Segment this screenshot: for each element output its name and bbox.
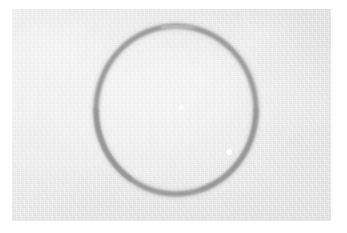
- paper-mottle: [12, 9, 331, 221]
- circle-stroke: [96, 26, 256, 194]
- circle-light-arc: [162, 26, 193, 28]
- scanned-image-canvas: [0, 0, 347, 233]
- paper-grain: [12, 9, 331, 221]
- scan-softening: [12, 9, 331, 221]
- circle-halo: [96, 26, 256, 194]
- circle-pressure-arc-left: [96, 110, 130, 179]
- hand-drawn-circle: [12, 9, 331, 221]
- circle-pressure-arc-right: [203, 110, 256, 189]
- paper-sheet: [12, 9, 331, 221]
- circle-svg: [12, 9, 331, 221]
- paper-shading: [12, 9, 331, 221]
